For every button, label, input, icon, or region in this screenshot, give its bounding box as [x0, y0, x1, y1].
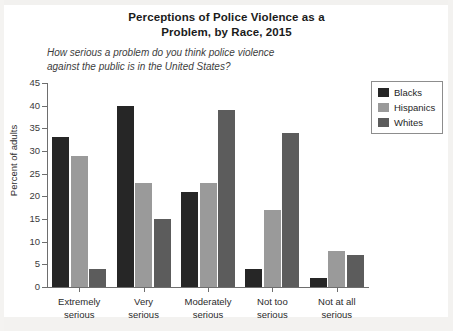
legend-label: Blacks [394, 87, 422, 98]
category-label-5: Not at allserious [305, 296, 369, 321]
legend-swatch-icon [378, 88, 389, 97]
legend-label: Whites [394, 117, 423, 128]
category-label-line: serious [111, 309, 175, 322]
category-label-line: Extremely [47, 296, 111, 309]
chart-title-line-1: Perceptions of Police Violence as a [0, 10, 453, 25]
bar-hispanics-4[interactable] [264, 210, 281, 287]
bar-hispanics-3[interactable] [200, 183, 217, 287]
chart-title: Perceptions of Police Violence as a Prob… [0, 10, 453, 40]
y-tick-label: 20 [6, 190, 40, 201]
y-tick-label: 10 [6, 236, 40, 247]
y-tick-label: 0 [6, 281, 40, 292]
bar-group [310, 83, 364, 287]
category-label-line: Not at all [305, 296, 369, 309]
legend-swatch-icon [378, 103, 389, 112]
y-tick-label: 30 [6, 145, 40, 156]
chart-subtitle-line-1: How serious a problem do you think polic… [47, 46, 337, 60]
legend-item-blacks[interactable]: Blacks [378, 87, 437, 98]
bar-blacks-2[interactable] [117, 106, 134, 287]
legend-label: Hispanics [394, 102, 435, 113]
page-edge-right [448, 0, 453, 331]
category-label-line: Moderately [176, 296, 240, 309]
category-label-line: Very [111, 296, 175, 309]
chart-subtitle-line-2: against the public is in the United Stat… [47, 60, 337, 74]
y-tick-label: 25 [6, 168, 40, 179]
legend-swatch-icon [378, 118, 389, 127]
x-tick-mark [272, 287, 273, 292]
page-edge-top [0, 0, 453, 5]
x-tick-mark [144, 287, 145, 292]
category-label-3: Moderatelyserious [176, 296, 240, 321]
bar-group [245, 83, 299, 287]
chart-subtitle: How serious a problem do you think polic… [47, 46, 337, 73]
category-label-line: serious [176, 309, 240, 322]
bar-group [181, 83, 235, 287]
y-tick-label: 5 [6, 258, 40, 269]
x-tick-mark [337, 287, 338, 292]
plot-area [47, 83, 369, 287]
chart-figure: Perceptions of Police Violence as a Prob… [0, 0, 453, 331]
bar-hispanics-2[interactable] [135, 183, 152, 287]
category-label-line: serious [240, 309, 304, 322]
y-tick-label: 45 [6, 77, 40, 88]
bar-blacks-3[interactable] [181, 192, 198, 287]
category-label-line: serious [47, 309, 111, 322]
y-axis-tick-labels: 051015202530354045 [0, 0, 40, 331]
category-label-line: Not too [240, 296, 304, 309]
bar-blacks-4[interactable] [245, 269, 262, 287]
category-label-line: serious [305, 309, 369, 322]
category-label-4: Not tooserious [240, 296, 304, 321]
bar-whites-2[interactable] [154, 219, 171, 287]
x-tick-mark [79, 287, 80, 292]
bar-whites-1[interactable] [89, 269, 106, 287]
category-label-2: Veryserious [111, 296, 175, 321]
bar-hispanics-5[interactable] [328, 251, 345, 287]
chart-legend: BlacksHispanicsWhites [371, 81, 443, 134]
bar-group [117, 83, 171, 287]
bar-whites-4[interactable] [282, 133, 299, 287]
bar-group [52, 83, 106, 287]
bar-whites-3[interactable] [218, 110, 235, 287]
y-tick-label: 15 [6, 213, 40, 224]
bar-blacks-1[interactable] [52, 137, 69, 287]
x-tick-mark [208, 287, 209, 292]
bar-blacks-5[interactable] [310, 278, 327, 287]
category-label-1: Extremelyserious [47, 296, 111, 321]
bar-hispanics-1[interactable] [71, 156, 88, 287]
legend-item-hispanics[interactable]: Hispanics [378, 102, 437, 113]
y-tick-label: 40 [6, 100, 40, 111]
chart-title-line-2: Problem, by Race, 2015 [0, 25, 453, 40]
y-tick-mark [42, 287, 47, 288]
y-tick-label: 35 [6, 122, 40, 133]
bar-whites-5[interactable] [347, 255, 364, 287]
legend-item-whites[interactable]: Whites [378, 117, 437, 128]
